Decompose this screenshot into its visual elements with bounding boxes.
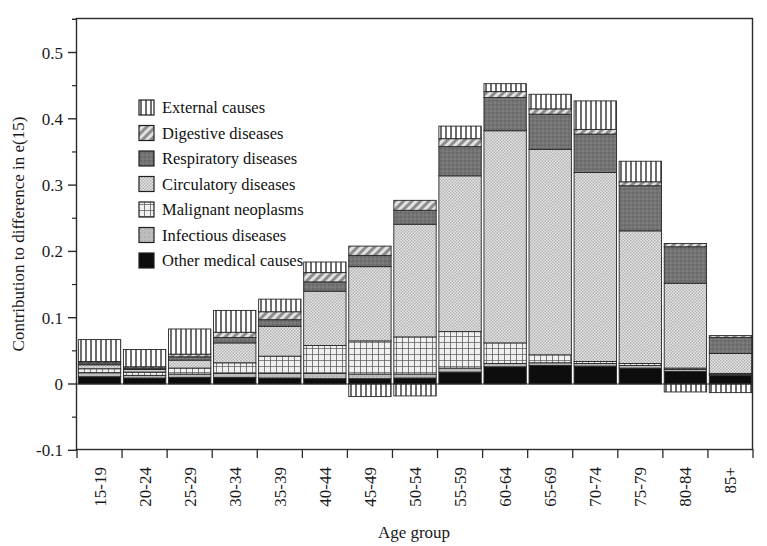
bar-segment (439, 332, 481, 368)
bar-segment (304, 291, 346, 345)
bar-segment (304, 379, 346, 384)
y-tick-label: 0.4 (42, 110, 64, 129)
bar-segment (78, 340, 120, 362)
legend-label: Digestive diseases (162, 124, 283, 143)
bar-segment (574, 101, 616, 130)
bar-segment (394, 384, 436, 396)
bar-segment (123, 378, 165, 384)
x-tick-label: 80-84 (676, 467, 695, 507)
bar-segment (349, 379, 391, 384)
x-tick-label: 20-24 (136, 467, 155, 507)
bar-segment (259, 356, 301, 373)
bar-segment (439, 372, 481, 384)
bar-segment (664, 384, 706, 392)
bar-segment (709, 375, 751, 384)
bar-segment (439, 147, 481, 176)
bar-segment (709, 384, 751, 393)
bar-segment (619, 182, 661, 186)
bar-segment (484, 98, 526, 131)
bar-segment (709, 336, 751, 338)
bar-segment (168, 374, 210, 377)
x-tick-label: 60-64 (496, 467, 515, 507)
bar-segment (123, 372, 165, 375)
legend-label: Infectious diseases (162, 226, 286, 245)
bar-segment (394, 200, 436, 210)
y-tick-label: 0.1 (42, 309, 63, 328)
legend-label: Malignant neoplasms (162, 200, 304, 219)
bar-segment (259, 378, 301, 384)
bar-segment (168, 360, 210, 368)
bar-segment (529, 149, 571, 355)
bar-segment (439, 368, 481, 372)
bar-segment (78, 365, 120, 369)
bar-segment (168, 329, 210, 354)
x-axis-title: Age group (378, 523, 450, 542)
bar-segment (529, 365, 571, 384)
legend: External causesDigestive diseasesRespira… (139, 98, 304, 270)
bar-segment (484, 367, 526, 384)
bar-segment (439, 176, 481, 332)
x-tick-label: 30-34 (226, 467, 245, 507)
bar-segment (349, 384, 391, 397)
bar-segment (619, 231, 661, 364)
y-tick-label: 0.3 (42, 176, 63, 195)
legend-swatch (139, 126, 154, 141)
bar-segment (349, 374, 391, 379)
x-tick-label: 40-44 (316, 467, 335, 507)
bar-segment (394, 378, 436, 384)
legend-label: Other medical causes (162, 251, 303, 270)
bar-segment (304, 262, 346, 273)
bar-segment (574, 129, 616, 134)
bar-segment (394, 210, 436, 224)
bar-segment (484, 343, 526, 364)
chart-svg: -0.100.10.20.30.40.5 15-1920-2425-2930-3… (0, 0, 767, 546)
bar-segment (394, 224, 436, 337)
legend-label: Respiratory diseases (162, 149, 297, 168)
y-tick-label: 0.5 (42, 44, 63, 63)
bar-segment (484, 363, 526, 366)
y-axis-ticks: -0.100.10.20.30.40.5 (36, 19, 77, 460)
bar-segment (709, 338, 751, 354)
bar-segment (259, 320, 301, 327)
bar-segment (349, 246, 391, 255)
bar-segment (259, 299, 301, 312)
bar-segment (168, 377, 210, 384)
bar-segment (664, 243, 706, 246)
bar-segment (78, 369, 120, 373)
x-tick-label: 75-79 (631, 467, 650, 507)
x-tick-label: 50-54 (406, 467, 425, 507)
bar-segment (574, 134, 616, 172)
bar-segment (78, 377, 120, 384)
bar-segment (78, 373, 120, 377)
x-tick-label: 35-39 (271, 467, 290, 507)
bar-segment (529, 355, 571, 363)
bar-segment (439, 139, 481, 147)
y-tick-label: -0.1 (36, 441, 63, 460)
bar-segment (619, 368, 661, 384)
x-tick-label: 70-74 (586, 467, 605, 507)
bar-segment (214, 310, 256, 332)
x-tick-label: 15-19 (91, 467, 110, 507)
bar-segment (168, 357, 210, 360)
legend-swatch (139, 177, 154, 192)
bar-segment (214, 377, 256, 384)
bar-segment (259, 373, 301, 378)
bar-segment (619, 161, 661, 182)
bar-segment (214, 363, 256, 374)
bar-segment (349, 267, 391, 341)
x-tick-label: 55-59 (451, 467, 470, 507)
x-tick-label: 25-29 (181, 467, 200, 507)
bar-segment (529, 109, 571, 114)
bar-segment (664, 283, 706, 368)
x-axis-ticks (77, 449, 753, 458)
legend-swatch (139, 151, 154, 166)
bar-segment (304, 282, 346, 291)
y-tick-label: 0.2 (42, 242, 63, 261)
bar-segment (214, 343, 256, 363)
bar-segment (168, 368, 210, 374)
stacked-bar-chart: -0.100.10.20.30.40.5 15-1920-2425-2930-3… (0, 0, 767, 546)
bar-segment (394, 337, 436, 374)
y-axis-title: Contribution to difference in e(15) (9, 117, 28, 352)
bar-segment (349, 255, 391, 266)
bar-segment (439, 126, 481, 139)
